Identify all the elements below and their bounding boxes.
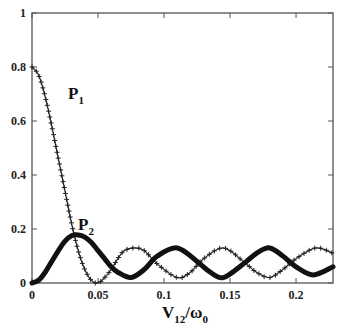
y-tick-label: 0.8 [11, 60, 26, 74]
x-tick-label: 0.05 [88, 288, 109, 302]
x-tick-label: 0 [29, 288, 35, 302]
x-tick-label: 0.15 [220, 288, 241, 302]
y-tick-label: 0.6 [11, 114, 26, 128]
series-label-p2: P2 [78, 215, 94, 237]
chart: 00.050.10.150.200.20.40.60.81 P1 P2 V12/… [0, 0, 342, 331]
y-tick-label: 0.2 [11, 222, 26, 236]
y-tick-label: 0.4 [11, 168, 26, 182]
y-tick-label: 0 [20, 276, 26, 290]
x-axis-label: V12/ω0 [162, 303, 208, 325]
series-label-p1: P1 [68, 84, 84, 106]
axis-ticks [32, 13, 333, 283]
y-tick-label: 1 [20, 6, 26, 20]
x-tick-label: 0.2 [289, 288, 304, 302]
plot-frame [32, 13, 333, 283]
x-tick-label: 0.1 [157, 288, 172, 302]
